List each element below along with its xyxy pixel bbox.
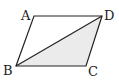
vertex-label-c: C: [88, 64, 98, 79]
vertex-label-b: B: [3, 63, 13, 78]
vertex-label-a: A: [20, 8, 31, 23]
vertex-label-d: D: [104, 8, 114, 23]
parallelogram-diagram: A D B C: [0, 0, 119, 83]
